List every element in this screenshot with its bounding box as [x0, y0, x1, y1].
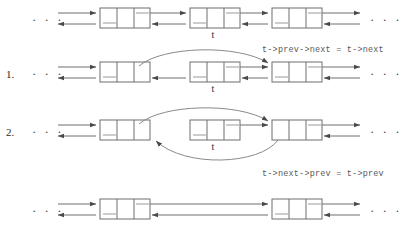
- list-node: [272, 62, 322, 82]
- list-node: [272, 120, 322, 140]
- step-number-2: 2.: [6, 126, 15, 138]
- row-final: · · · · · ·: [32, 199, 402, 219]
- curve-next-prev-relink: [156, 140, 278, 160]
- caption-step-2: t->next->prev = t->prev: [262, 169, 384, 179]
- caption-step-1: t->prev->next = t->next: [262, 45, 384, 55]
- list-node-target: [190, 8, 240, 28]
- node-label-t: t: [212, 29, 215, 40]
- ellipsis-right: · · ·: [370, 12, 402, 27]
- step-number-1: 1.: [6, 68, 15, 80]
- ellipsis-right: · · ·: [370, 203, 402, 218]
- node-label-t: t: [212, 141, 215, 152]
- row-step-2: 2. · · · t->next->prev = t->prev: [6, 108, 402, 179]
- ellipsis-right: · · ·: [370, 66, 402, 81]
- list-node: [100, 199, 150, 219]
- list-node: [100, 62, 150, 82]
- node-label-t: t: [212, 83, 215, 94]
- ellipsis-right: · · ·: [370, 124, 402, 139]
- row-step-1: 1. · · · t->prev->next = t->next: [6, 45, 402, 94]
- row-initial: · · ·: [32, 8, 402, 40]
- list-node: [272, 8, 322, 28]
- list-node-target: [190, 120, 240, 140]
- ellipsis-left: · · ·: [32, 124, 64, 139]
- list-node-target: [190, 62, 240, 82]
- list-node: [100, 120, 150, 140]
- list-node: [100, 8, 150, 28]
- diagram-canvas: · · ·: [0, 0, 402, 233]
- ellipsis-left: · · ·: [32, 12, 64, 27]
- linked-list-deletion-diagram: · · ·: [0, 0, 402, 233]
- list-node: [272, 199, 322, 219]
- ellipsis-left: · · ·: [32, 203, 64, 218]
- ellipsis-left: · · ·: [32, 66, 64, 81]
